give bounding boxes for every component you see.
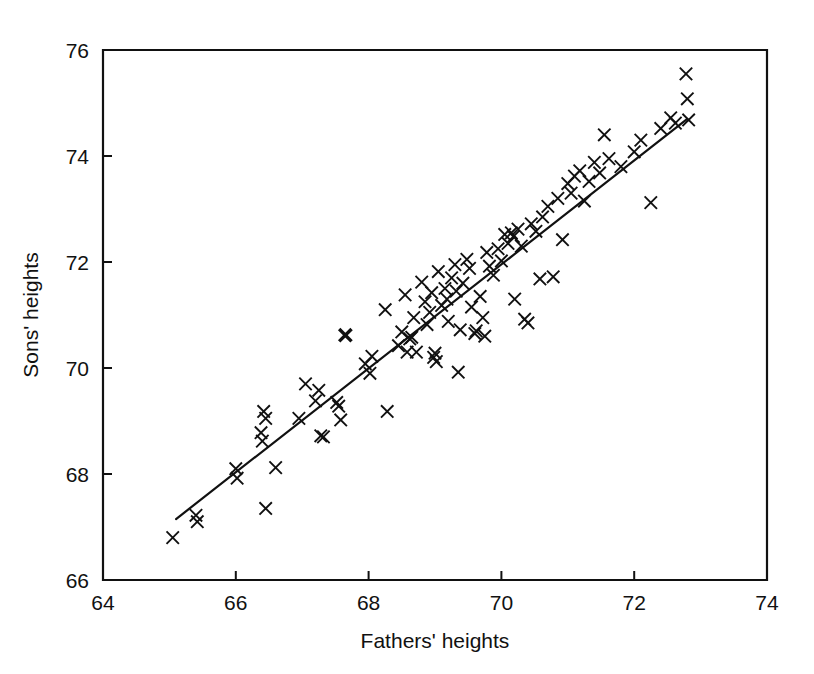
data-point bbox=[425, 287, 437, 299]
data-point bbox=[507, 230, 519, 242]
data-point bbox=[381, 405, 393, 417]
chart-canvas: 646668707274 666870727476 Fathers' heigh… bbox=[0, 0, 814, 674]
data-point bbox=[534, 273, 546, 285]
x-tick-label: 64 bbox=[91, 591, 115, 614]
data-point bbox=[333, 400, 345, 412]
data-point bbox=[465, 301, 477, 313]
x-axis-tick-labels: 646668707274 bbox=[91, 591, 779, 614]
data-point bbox=[442, 315, 454, 327]
y-axis-ticks bbox=[103, 156, 112, 474]
data-point bbox=[645, 196, 657, 208]
data-point bbox=[603, 152, 615, 164]
data-point bbox=[552, 192, 564, 204]
data-point bbox=[547, 271, 559, 283]
data-point bbox=[452, 366, 464, 378]
data-point bbox=[259, 502, 271, 514]
data-point bbox=[299, 378, 311, 390]
data-point bbox=[449, 258, 461, 270]
data-point-markers bbox=[167, 68, 695, 544]
scatter-plot-figure: 646668707274 666870727476 Fathers' heigh… bbox=[0, 0, 814, 674]
data-point bbox=[530, 225, 542, 237]
data-point bbox=[474, 290, 486, 302]
data-point bbox=[454, 324, 466, 336]
data-point bbox=[461, 253, 473, 265]
data-point bbox=[379, 304, 391, 316]
data-point bbox=[331, 396, 343, 408]
y-tick-label: 76 bbox=[66, 39, 89, 62]
data-point bbox=[583, 175, 595, 187]
data-point bbox=[681, 93, 693, 105]
y-tick-label: 68 bbox=[66, 463, 89, 486]
data-point bbox=[313, 384, 325, 396]
data-point bbox=[410, 346, 422, 358]
data-point bbox=[680, 68, 692, 80]
data-point bbox=[430, 355, 442, 367]
data-point bbox=[167, 531, 179, 543]
y-tick-label: 66 bbox=[66, 569, 89, 592]
data-point bbox=[522, 317, 534, 329]
y-tick-label: 74 bbox=[66, 145, 90, 168]
x-axis-title: Fathers' heights bbox=[361, 629, 510, 652]
data-point bbox=[399, 289, 411, 301]
data-point bbox=[556, 234, 568, 246]
data-point bbox=[477, 311, 489, 323]
y-axis-title: Sons' heights bbox=[19, 252, 42, 377]
data-point bbox=[339, 329, 351, 341]
data-point bbox=[598, 129, 610, 141]
data-point bbox=[481, 246, 493, 258]
data-point bbox=[445, 272, 457, 284]
data-point bbox=[635, 134, 647, 146]
x-tick-label: 72 bbox=[623, 591, 646, 614]
data-point bbox=[525, 218, 537, 230]
data-point bbox=[269, 461, 281, 473]
y-tick-label: 72 bbox=[66, 251, 89, 274]
data-point bbox=[512, 223, 524, 235]
x-tick-label: 74 bbox=[755, 591, 779, 614]
x-tick-label: 68 bbox=[357, 591, 380, 614]
y-tick-label: 70 bbox=[66, 357, 89, 380]
data-point bbox=[565, 187, 577, 199]
data-point bbox=[432, 265, 444, 277]
data-point bbox=[508, 293, 520, 305]
data-point bbox=[457, 277, 469, 289]
data-point bbox=[463, 262, 475, 274]
data-point bbox=[256, 435, 268, 447]
x-tick-label: 70 bbox=[490, 591, 513, 614]
data-point bbox=[335, 414, 347, 426]
data-point bbox=[439, 282, 451, 294]
data-point bbox=[366, 350, 378, 362]
regression-line bbox=[176, 119, 687, 519]
y-axis-tick-labels: 666870727476 bbox=[66, 39, 90, 592]
x-tick-label: 66 bbox=[224, 591, 247, 614]
data-point bbox=[419, 296, 431, 308]
data-point bbox=[408, 311, 420, 323]
x-axis-ticks bbox=[236, 571, 634, 580]
